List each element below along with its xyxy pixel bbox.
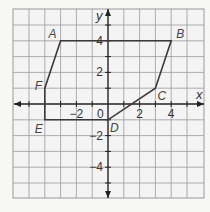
x-axis-label: x <box>195 87 203 102</box>
x-tick-label: 4 <box>168 107 175 121</box>
x-tick-label: −2 <box>70 107 84 121</box>
coordinate-plane-figure: xy0−22442−2−4ABCDEF <box>0 0 210 212</box>
vertex-label-f: F <box>35 79 43 93</box>
y-tick-label: −4 <box>89 160 103 174</box>
x-tick-label: 2 <box>136 107 143 121</box>
y-tick-label: 4 <box>96 34 103 48</box>
vertex-label-b: B <box>176 27 184 41</box>
vertex-label-d: D <box>110 121 119 135</box>
origin-label: 0 <box>97 107 104 121</box>
coordinate-plane: xy0−22442−2−4ABCDEF <box>0 0 210 212</box>
vertex-label-e: E <box>35 122 44 136</box>
y-tick-label: −2 <box>89 129 103 143</box>
y-tick-label: 2 <box>96 65 103 79</box>
vertex-label-c: C <box>157 89 166 103</box>
vertex-label-a: A <box>48 27 57 41</box>
